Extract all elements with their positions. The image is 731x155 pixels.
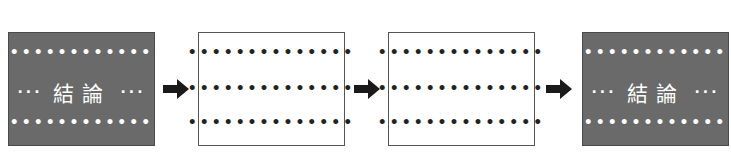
right-arrow-icon [354, 79, 380, 99]
dotted-line: •••••••••••••• [378, 81, 545, 95]
dotted-line: •••••••••••••• [188, 81, 355, 95]
conclusion-label: 結論 [627, 77, 685, 107]
dotted-line: •••••••••••••• [378, 45, 545, 59]
right-arrow-icon [163, 79, 189, 99]
ellipsis-left: ··· [18, 84, 43, 100]
dotted-line: •••••••••••••• [0, 45, 165, 59]
dotted-line: •••••••••••••• [378, 115, 545, 129]
ellipsis-right: ··· [695, 84, 720, 100]
dotted-line: •••••••••••••• [572, 115, 731, 129]
right-arrow-icon [546, 79, 572, 99]
ellipsis-left: ··· [592, 84, 617, 100]
conclusion-box-end: •••••••••••••• ··· 結論 ··· •••••••••••••• [582, 32, 729, 146]
conclusion-label: 結論 [53, 77, 111, 107]
dotted-line: •••••••••••••• [188, 115, 355, 129]
dotted-line: •••••••••••••• [0, 115, 165, 129]
dotted-line: •••••••••••••• [572, 45, 731, 59]
body-box-1: •••••••••••••• •••••••••••••• ••••••••••… [198, 32, 345, 146]
conclusion-box-start: •••••••••••••• ··· 結論 ··· •••••••••••••• [8, 32, 155, 146]
dotted-line: •••••••••••••• [188, 45, 355, 59]
ellipsis-right: ··· [121, 84, 146, 100]
body-box-2: •••••••••••••• •••••••••••••• ••••••••••… [388, 32, 535, 146]
